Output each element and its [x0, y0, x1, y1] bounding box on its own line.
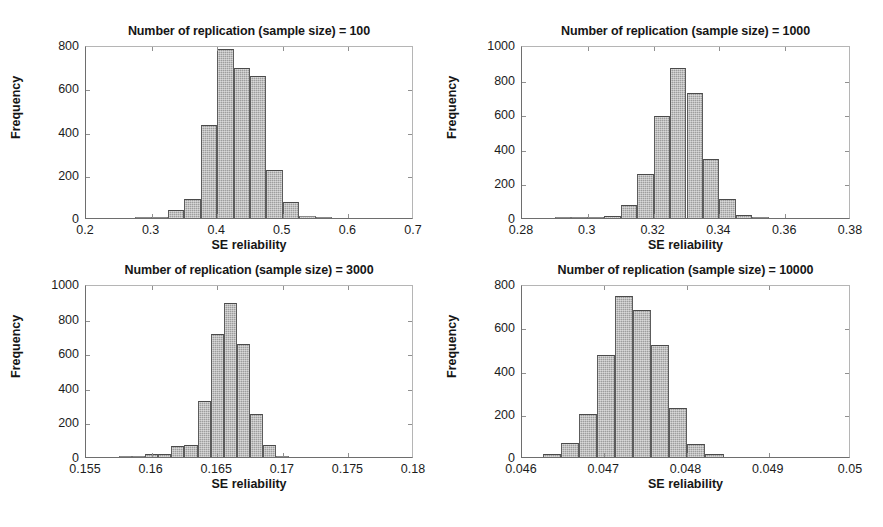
histogram-bar	[669, 408, 687, 457]
y-axis-tick-right	[845, 373, 849, 374]
y-tick-label: 200	[475, 408, 515, 422]
y-tick-label: 400	[475, 365, 515, 379]
x-tick-label: 0.047	[588, 462, 619, 476]
y-axis-tick-right	[845, 416, 849, 417]
y-axis-tick	[522, 373, 526, 374]
histogram-bar	[579, 414, 597, 457]
y-tick-label: 600	[475, 321, 515, 335]
x-axis-tick-top	[604, 286, 605, 290]
x-axis-tick-top	[769, 286, 770, 290]
y-tick-label: 0	[475, 451, 515, 465]
figure-canvas: Number of replication (sample size) = 10…	[0, 0, 883, 527]
x-axis-tick	[769, 453, 770, 457]
y-axis-tick-right	[845, 329, 849, 330]
y-tick-label: 800	[475, 278, 515, 292]
plot-area	[521, 285, 850, 458]
x-axis-tick-top	[687, 286, 688, 290]
y-axis-tick	[522, 329, 526, 330]
histogram-bar	[633, 310, 651, 457]
histogram-bar	[705, 454, 723, 457]
x-tick-label: 0.049	[752, 462, 783, 476]
x-axis-tick	[687, 453, 688, 457]
x-tick-label: 0.05	[838, 462, 862, 476]
x-axis-label: SE reliability	[521, 477, 850, 491]
histogram-panel-4: Number of replication (sample size) = 10…	[0, 0, 883, 527]
histogram-bar	[687, 444, 705, 457]
histogram-bar	[561, 443, 579, 457]
x-axis-tick	[604, 453, 605, 457]
bar-series	[522, 286, 849, 457]
histogram-bar	[597, 355, 615, 457]
histogram-bar	[615, 296, 633, 457]
panel-title: Number of replication (sample size) = 10…	[521, 263, 850, 277]
y-axis-tick	[522, 416, 526, 417]
histogram-bar	[651, 345, 669, 457]
x-tick-label: 0.048	[670, 462, 701, 476]
histogram-bar	[543, 454, 561, 457]
